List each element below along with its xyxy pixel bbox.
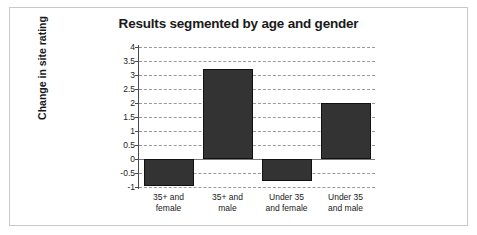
y-axis-tick-mark — [135, 103, 139, 104]
y-axis-tick-mark — [135, 159, 139, 160]
y-axis-tick-mark — [135, 89, 139, 90]
y-axis-tick-mark — [135, 131, 139, 132]
y-axis-tick-label: -0.5 — [109, 168, 135, 178]
category-label-line: Under 35 — [316, 192, 375, 203]
y-axis-tick-label: 0.5 — [109, 140, 135, 150]
gridline — [139, 89, 375, 90]
x-axis-category-label: Under 35and female — [257, 192, 316, 213]
y-axis-tick-labels: 43.532.521.510.50-0.5-1 — [107, 47, 135, 187]
y-axis-tick-mark — [135, 187, 139, 188]
y-axis-tick-label: 1 — [109, 126, 135, 136]
y-axis-tick-mark — [135, 47, 139, 48]
y-axis-tick-label: 0 — [109, 154, 135, 164]
gridline — [139, 75, 375, 76]
category-label-line: and male — [316, 203, 375, 214]
gridline — [139, 61, 375, 62]
y-axis-tick-label: 1.5 — [109, 112, 135, 122]
y-axis-tick-label: 2.5 — [109, 84, 135, 94]
y-axis-tick-mark — [135, 117, 139, 118]
category-label-line: and female — [257, 203, 316, 214]
x-axis-category-label: 35+ andmale — [198, 192, 257, 213]
gridline — [139, 47, 375, 48]
y-axis-tick-mark — [135, 61, 139, 62]
category-label-line: female — [139, 203, 198, 214]
y-axis-tick-label: 3.5 — [109, 56, 135, 66]
x-axis-category-label: Under 35and male — [316, 192, 375, 213]
chart-title: Results segmented by age and gender — [0, 16, 477, 31]
gridline — [139, 187, 375, 188]
y-axis-tick-label: 4 — [109, 42, 135, 52]
y-axis-tick-mark — [135, 75, 139, 76]
y-axis-title: Change in site rating — [36, 8, 48, 128]
bar — [203, 69, 253, 159]
y-axis-tick-mark — [135, 145, 139, 146]
bar — [144, 159, 194, 186]
plot-area — [139, 47, 375, 187]
bar — [262, 159, 312, 181]
bar — [321, 103, 371, 159]
x-axis-category-label: 35+ andfemale — [139, 192, 198, 213]
category-label-line: Under 35 — [257, 192, 316, 203]
y-axis-tick-mark — [135, 173, 139, 174]
chart-figure: Results segmented by age and gender Chan… — [0, 0, 477, 235]
y-axis-tick-label: -1 — [109, 182, 135, 192]
category-label-line: 35+ and — [139, 192, 198, 203]
category-label-line: 35+ and — [198, 192, 257, 203]
y-axis-tick-label: 3 — [109, 70, 135, 80]
category-label-line: male — [198, 203, 257, 214]
y-axis-tick-label: 2 — [109, 98, 135, 108]
